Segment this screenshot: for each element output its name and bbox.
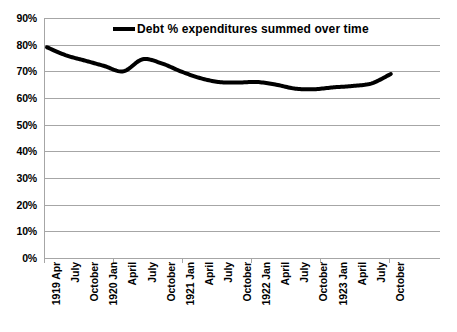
x-axis-tick-label: July bbox=[70, 262, 81, 283]
plot-area bbox=[44, 18, 440, 258]
x-axis-tick-label: July bbox=[376, 262, 387, 283]
line-chart: 90% 80% 70% 60% 50% 40% 30% 20% 10% 0% bbox=[0, 0, 457, 332]
legend-label: Debt % expenditures summed over time bbox=[137, 22, 369, 36]
x-axis-tick-label: October bbox=[89, 262, 100, 302]
y-axis-tick-label: 0% bbox=[22, 253, 37, 263]
x-axis-tick-label: October bbox=[395, 262, 406, 302]
x-axis-tick-label: October bbox=[242, 262, 253, 302]
data-series-line bbox=[44, 18, 440, 258]
x-axis-tick-label: 1921 Jan bbox=[185, 262, 196, 306]
x-axis-tick-label: 1919 Apr bbox=[51, 262, 62, 305]
y-axis-tick-label: 90% bbox=[17, 13, 37, 23]
y-axis: 90% 80% 70% 60% 50% 40% 30% 20% 10% 0% bbox=[0, 0, 44, 332]
y-axis-tick-label: 10% bbox=[17, 226, 37, 236]
x-axis-tick-label: July bbox=[223, 262, 234, 283]
y-axis-tick-label: 20% bbox=[17, 200, 37, 210]
x-axis-tick-label: 1922 Jan bbox=[261, 262, 272, 306]
x-axis-tick-label: April bbox=[357, 262, 368, 285]
x-axis-tick-label: July bbox=[299, 262, 310, 283]
x-axis-tick-label: October bbox=[166, 262, 177, 302]
x-axis: 1919 AprJulyOctober1920 JanAprilJulyOcto… bbox=[44, 262, 440, 332]
x-axis-tick-label: April bbox=[280, 262, 291, 285]
y-axis-tick-label: 60% bbox=[17, 93, 37, 103]
y-axis-tick-label: 50% bbox=[17, 120, 37, 130]
legend-line-marker-icon bbox=[113, 27, 135, 31]
y-axis-tick-label: 40% bbox=[17, 146, 37, 156]
x-axis-tick-label: 1923 Jan bbox=[338, 262, 349, 306]
x-axis-tick-label: October bbox=[318, 262, 329, 302]
chart-legend: Debt % expenditures summed over time bbox=[113, 22, 369, 36]
x-axis-tick-label: 1920 Jan bbox=[108, 262, 119, 306]
y-axis-tick-label: 80% bbox=[17, 40, 37, 50]
x-axis-tick-label: July bbox=[147, 262, 158, 283]
x-axis-tick-label: April bbox=[204, 262, 215, 285]
x-axis-tick-label: April bbox=[127, 262, 138, 285]
y-axis-tick-label: 30% bbox=[17, 173, 37, 183]
y-axis-tick-label: 70% bbox=[17, 66, 37, 76]
axis-baseline bbox=[44, 258, 440, 259]
